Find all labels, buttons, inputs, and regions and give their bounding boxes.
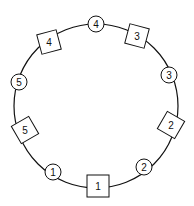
node-circle-2: 2 [136,159,152,175]
node-label: 1 [95,181,101,192]
node-circle-3: 3 [161,67,177,83]
node-label: 5 [16,77,22,88]
node-label: 1 [50,167,56,178]
node-circle-5: 5 [11,74,27,90]
node-square-4: 4 [37,30,61,54]
node-label: 2 [168,120,174,131]
node-label: 4 [46,37,52,48]
ring-diagram: 4 3 3 2 2 1 1 5 5 4 [0,0,194,206]
node-label: 3 [134,31,140,42]
node-label: 4 [93,19,99,30]
node-square-2: 2 [157,111,184,138]
node-square-3: 3 [125,24,149,48]
node-label: 3 [166,70,172,81]
node-circle-4: 4 [88,16,104,32]
node-circle-1: 1 [45,164,61,180]
node-label: 5 [22,125,28,136]
node-square-1: 1 [87,175,109,197]
node-label: 2 [141,162,147,173]
ring-connector [14,24,178,188]
